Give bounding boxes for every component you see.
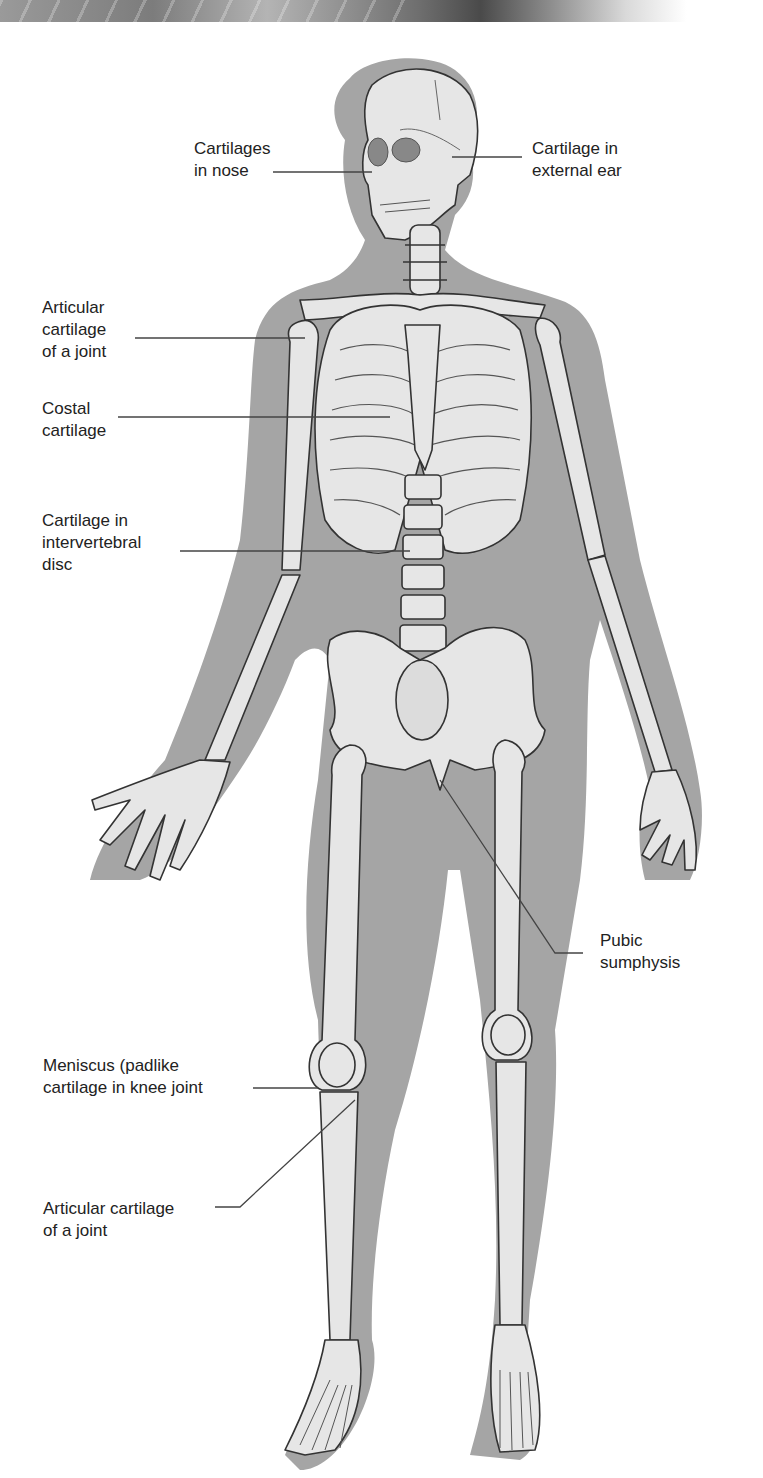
- label-articular-cartilage-knee: Articular cartilage of a joint: [43, 1198, 174, 1242]
- label-meniscus: Meniscus (padlike cartilage in knee join…: [43, 1055, 203, 1099]
- skeleton-illustration: [0, 0, 763, 1478]
- cervical-spine: [410, 225, 440, 295]
- label-costal-cartilage: Costal cartilage: [42, 398, 106, 442]
- label-articular-cartilage-shoulder: Articular cartilage of a joint: [42, 297, 106, 363]
- right-tibia: [496, 1062, 526, 1325]
- label-pubic-symphysis: Pubic sumphysis: [600, 930, 680, 974]
- label-cartilage-external-ear: Cartilage in external ear: [532, 138, 622, 182]
- label-intervertebral-disc: Cartilage in intervertebral disc: [42, 510, 141, 576]
- label-cartilages-in-nose: Cartilages in nose: [194, 138, 271, 182]
